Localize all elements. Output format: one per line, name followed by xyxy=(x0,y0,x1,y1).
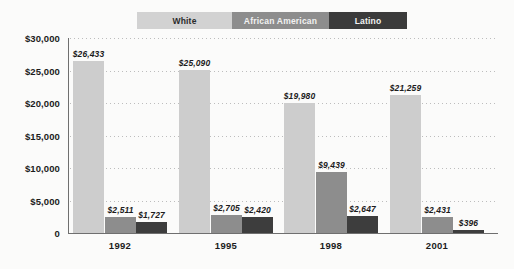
legend-item-african-american: African American xyxy=(232,12,329,29)
y-axis-tick-label: $5,000 xyxy=(0,195,60,206)
bar-value-label: $25,090 xyxy=(179,58,210,68)
chart-legend: White African American Latino xyxy=(137,12,407,29)
bar-value-label: $1,727 xyxy=(138,210,165,220)
legend-label-white: White xyxy=(172,16,196,26)
y-axis-line xyxy=(68,38,69,234)
bar: $2,511 xyxy=(105,217,136,233)
bar-value-label: $19,980 xyxy=(284,91,315,101)
bar-value-label: $2,420 xyxy=(244,205,271,215)
bar: $2,431 xyxy=(422,217,453,233)
bar-group: $19,980$9,439$2,647 xyxy=(284,38,378,233)
bar-value-label: $26,433 xyxy=(73,49,104,59)
legend-item-latino: Latino xyxy=(329,12,407,29)
y-axis-tick-label: $10,000 xyxy=(0,163,60,174)
x-axis-tick-label: 1998 xyxy=(320,240,342,251)
bar: $21,259 xyxy=(390,95,421,233)
bar: $1,727 xyxy=(136,222,167,233)
bar-value-label: $2,705 xyxy=(213,203,240,213)
bar: $2,705 xyxy=(211,215,242,233)
bar: $19,980 xyxy=(284,103,315,233)
y-axis-tick-label: $15,000 xyxy=(0,130,60,141)
bar: $25,090 xyxy=(179,70,210,233)
bar-value-label: $2,431 xyxy=(424,205,451,215)
bar: $2,420 xyxy=(242,217,273,233)
y-axis-tick-label: $20,000 xyxy=(0,98,60,109)
bar-value-label: $21,259 xyxy=(390,83,421,93)
bar-group: $21,259$2,431$396 xyxy=(390,38,484,233)
bar: $2,647 xyxy=(347,216,378,233)
y-axis-tick-label: 0 xyxy=(0,228,60,239)
x-axis-tick-label: 2001 xyxy=(426,240,448,251)
bar-value-label: $2,647 xyxy=(349,204,376,214)
bar-value-label: $396 xyxy=(459,218,478,228)
bar: $396 xyxy=(453,230,484,233)
x-axis-tick-label: 1992 xyxy=(109,240,131,251)
legend-label-latino: Latino xyxy=(355,16,382,26)
legend-label-african-american: African American xyxy=(244,16,317,26)
bar-group: $26,433$2,511$1,727 xyxy=(73,38,167,233)
y-axis-tick-label: $25,000 xyxy=(0,65,60,76)
chart-page: White African American Latino 0$5,000$10… xyxy=(0,0,514,269)
legend-item-white: White xyxy=(137,12,232,29)
y-axis-tick-label: $30,000 xyxy=(0,33,60,44)
bar: $9,439 xyxy=(316,172,347,233)
plot-area: $26,433$2,511$1,727$25,090$2,705$2,420$1… xyxy=(68,38,498,234)
bar-value-label: $2,511 xyxy=(108,205,134,215)
x-axis-line xyxy=(68,233,498,234)
bar-value-label: $9,439 xyxy=(318,160,345,170)
bar-group: $25,090$2,705$2,420 xyxy=(179,38,273,233)
bar: $26,433 xyxy=(73,61,104,233)
x-axis-tick-labels: 1992199519982001 xyxy=(68,240,498,258)
y-axis-tick-labels: 0$5,000$10,000$15,000$20,000$25,000$30,0… xyxy=(0,38,62,234)
x-axis-tick-label: 1995 xyxy=(215,240,237,251)
